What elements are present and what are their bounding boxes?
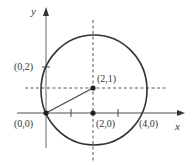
point-2-0 xyxy=(90,110,95,115)
label-0-2: (0,2) xyxy=(14,61,33,73)
label-4-0: (4,0) xyxy=(139,118,158,130)
label-2-1: (2,1) xyxy=(97,73,116,85)
y-axis-label: y xyxy=(30,5,36,17)
label-2-0: (2,0) xyxy=(96,118,115,130)
y-axis-arrow-icon xyxy=(43,7,49,16)
point-origin xyxy=(43,110,48,115)
x-axis-label: x xyxy=(174,120,180,132)
point-center xyxy=(90,85,95,90)
x-axis-arrow-icon xyxy=(177,110,185,116)
diagram-canvas: y x (0,2) (2,1) (0,0) (2,0) (4,0) xyxy=(0,0,194,165)
label-0-0: (0,0) xyxy=(14,118,33,130)
radius-line xyxy=(46,88,93,113)
